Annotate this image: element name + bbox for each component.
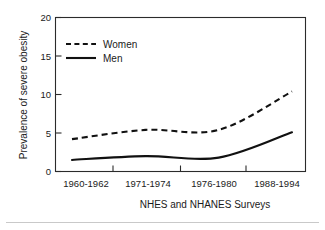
y-tick-label-20: 20 <box>40 12 51 23</box>
legend-label-men: Men <box>103 53 122 64</box>
x-tick-label-1988-1994: 1988-1994 <box>254 178 299 189</box>
y-tick-label-5: 5 <box>46 128 51 139</box>
y-tick-label-0: 0 <box>46 166 51 177</box>
x-tick-label-1960-1962: 1960-1962 <box>63 178 108 189</box>
y-tick-label-15: 15 <box>40 51 51 62</box>
legend-label-women: Women <box>103 39 137 50</box>
y-tick-label-10: 10 <box>40 89 51 100</box>
x-tick-label-1971-1974: 1971-1974 <box>125 178 170 189</box>
chart-figure: 0 5 10 15 20 1960-1962 1971-1974 1976-19… <box>0 0 325 230</box>
y-axis-title: Prevalence of severe obesity <box>18 31 29 159</box>
x-tick-label-1976-1980: 1976-1980 <box>191 178 236 189</box>
x-axis-title: NHES and NHANES Surveys <box>140 199 271 210</box>
severe-obesity-line-chart: 0 5 10 15 20 1960-1962 1971-1974 1976-19… <box>0 0 325 230</box>
chart-background <box>0 0 325 230</box>
